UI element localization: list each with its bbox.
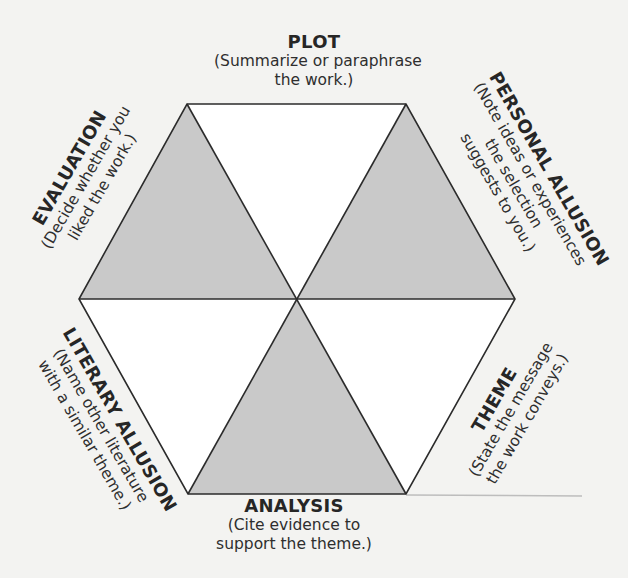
section-title: PLOT — [214, 31, 414, 52]
faint-line — [406, 495, 582, 496]
section-description: (Summarize or paraphrase the work.) — [214, 52, 414, 89]
section-label-plot: PLOT (Summarize or paraphrase the work.) — [214, 31, 414, 89]
section-title: ANALYSIS — [194, 495, 394, 516]
section-label-analysis: ANALYSIS (Cite evidence to support the t… — [194, 495, 394, 553]
section-description: (Cite evidence to support the theme.) — [194, 516, 394, 553]
